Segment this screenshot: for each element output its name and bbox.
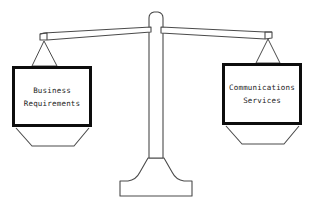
pan-left-label-line-1: Business	[33, 84, 71, 97]
hanger-left	[32, 41, 57, 66]
pan-left	[16, 128, 89, 146]
pan-left-label-line-2: Requirements	[24, 97, 81, 110]
scale-base	[120, 158, 192, 196]
pan-box-communications-services[interactable]: Communications Services	[222, 63, 302, 125]
diagram-caption	[0, 0, 312, 5]
scale-column	[149, 12, 163, 158]
hanger-right	[256, 39, 280, 63]
pan-box-business-requirements[interactable]: Business Requirements	[12, 66, 92, 127]
pan-right-label-line-1: Communications	[229, 81, 295, 94]
scale-beam-left	[40, 27, 151, 40]
pan-right	[226, 126, 299, 144]
pan-right-label-line-2: Services	[243, 94, 281, 107]
scale-beam-right	[161, 27, 272, 39]
